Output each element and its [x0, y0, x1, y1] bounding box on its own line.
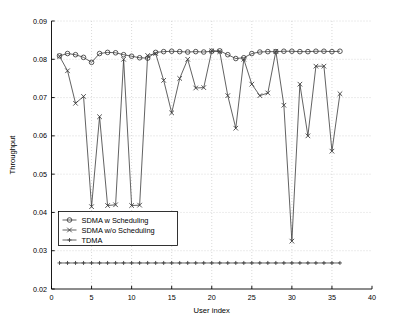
y-tick-label: 0.03: [33, 246, 47, 255]
axis-ticks: [52, 21, 373, 289]
chart-figure: 05101520253035400.020.030.040.050.060.07…: [0, 0, 404, 334]
x-tick-label: 5: [90, 293, 94, 302]
x-tick-label: 10: [128, 293, 136, 302]
x-tick-label: 20: [208, 293, 216, 302]
grid-lines: [52, 21, 373, 289]
legend-box[interactable]: SDMA w SchedulingSDMA w/o SchedulingTDMA: [59, 212, 178, 246]
y-tick-label: 0.04: [33, 208, 47, 217]
series-sdma-w-scheduling: [57, 49, 342, 65]
x-tick-label: 35: [328, 293, 336, 302]
y-tick-label: 0.02: [33, 285, 47, 294]
x-tick-label: 0: [50, 293, 54, 302]
x-tick-label: 15: [168, 293, 176, 302]
y-tick-label: 0.07: [33, 93, 47, 102]
x-axis-title: User index: [194, 306, 230, 315]
y-tick-label: 0.06: [33, 131, 47, 140]
legend-label[interactable]: SDMA w/o Scheduling: [82, 226, 155, 235]
y-axis-title: Throughput: [8, 135, 17, 175]
legend-label[interactable]: SDMA w Scheduling: [82, 216, 149, 225]
y-tick-label: 0.08: [33, 55, 47, 64]
y-tick-label: 0.09: [33, 17, 47, 26]
x-tick-label: 25: [248, 293, 256, 302]
legend-label[interactable]: TDMA: [82, 236, 103, 245]
x-tick-label: 30: [288, 293, 296, 302]
plot-frame: [52, 21, 373, 289]
series-tdma: [58, 261, 342, 265]
y-tick-label: 0.05: [33, 170, 47, 179]
chart-canvas: 05101520253035400.020.030.040.050.060.07…: [0, 0, 404, 334]
x-tick-label: 40: [368, 293, 376, 302]
